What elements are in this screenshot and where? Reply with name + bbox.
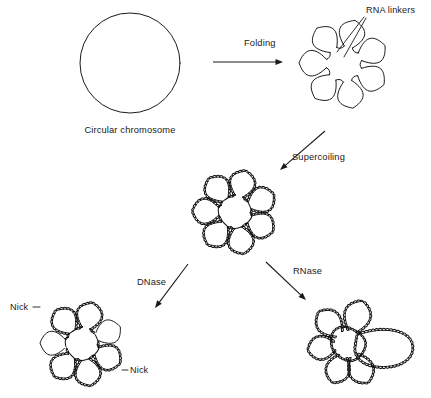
stage-label-circular-chromosome: Circular chromosome xyxy=(84,125,175,135)
loop-outline xyxy=(358,66,385,91)
transition-label-supercoiling: Supercoiling xyxy=(292,152,345,162)
fused-large-loop-coils xyxy=(354,328,414,368)
loop-outline xyxy=(299,50,327,76)
arrow-head xyxy=(276,59,284,65)
transition-label-dnase: DNase xyxy=(137,277,166,287)
loop-outline xyxy=(338,80,364,108)
stage-folded-rosette xyxy=(299,20,385,108)
loop-coils xyxy=(227,226,254,254)
transition-label-rnase: RNase xyxy=(293,266,322,276)
annotation-label-nick-lower-right: Nick xyxy=(130,365,149,375)
loop-outline xyxy=(193,199,219,223)
core-outline xyxy=(326,46,361,82)
transition-folding xyxy=(213,59,283,65)
stage-supercoiled-rosette xyxy=(192,170,275,255)
annotation-label-nick-upper-left: Nick xyxy=(10,302,29,312)
loop-outline xyxy=(311,75,336,101)
annotation-leader xyxy=(337,17,364,52)
arrow-head xyxy=(155,300,162,308)
nick-gap xyxy=(94,333,96,335)
nick-gap xyxy=(64,347,66,349)
shapes-layer xyxy=(40,13,414,387)
stage-rnase-product xyxy=(307,300,414,384)
loop-coils xyxy=(74,358,101,386)
stage-dnase-product xyxy=(40,302,121,387)
labels-layer: Circular chromosomeFoldingSupercoilingDN… xyxy=(10,5,415,375)
circular-chromosome-outline xyxy=(80,13,180,113)
fused-loop-coils xyxy=(348,353,375,384)
annotation-label-rna-linkers: RNA linkers xyxy=(366,5,415,15)
loop-outline xyxy=(312,27,337,53)
transition-supercoiling xyxy=(280,131,325,170)
annotation-leader xyxy=(344,18,366,57)
loop-outline xyxy=(358,38,385,63)
stage-circular-chromosome xyxy=(80,13,180,113)
annotation-rna-linkers xyxy=(337,17,366,57)
fused-loop-outline xyxy=(345,301,370,332)
chromosome-folding-diagram: Circular chromosomeFoldingSupercoilingDN… xyxy=(0,0,431,398)
transition-label-folding: Folding xyxy=(244,38,276,48)
relaxed-loop xyxy=(40,331,66,355)
